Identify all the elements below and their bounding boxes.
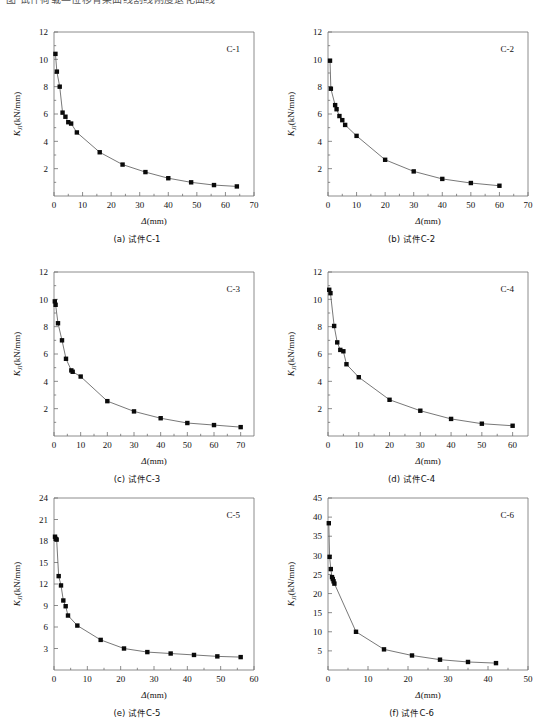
y-tick-label: 10 [313,295,323,305]
x-tick-label: 30 [130,440,140,450]
data-point-marker [189,180,193,184]
data-point-marker [410,653,414,657]
y-tick-label: 12 [313,27,322,37]
data-point-marker [98,638,102,642]
figure-c1: 01020304050607024681012C-1Δ(mm)KJI(kN/mm… [0,14,274,254]
data-point-marker [449,417,453,421]
y-tick-label: 24 [39,493,49,503]
x-tick-label: 30 [150,674,160,684]
y-tick-label: 2 [44,404,49,414]
x-tick-label: 10 [352,200,362,210]
x-tick-label: 0 [326,200,331,210]
data-point-marker [192,653,196,657]
plot-area-c4: 010203040506024681012C-4Δ(mm)KJI(kN/mm) [276,256,544,470]
data-point-marker [337,114,341,118]
data-point-marker [383,158,387,162]
x-tick-label: 40 [447,440,457,450]
data-point-marker [69,121,73,125]
x-tick-label: 30 [444,674,454,684]
x-tick-label: 60 [250,674,260,684]
x-tick-label: 0 [52,200,57,210]
figure-caption-c6: (f) 试件C-6 [274,706,549,718]
y-tick-label: 2 [44,164,49,174]
y-tick-label: 40 [313,512,323,522]
x-tick-label: 50 [477,440,487,450]
x-tick-label: 50 [524,674,534,684]
data-point-marker [78,374,82,378]
y-tick-label: 15 [39,558,49,568]
data-point-marker [105,399,109,403]
chart-c3: 01020304050607024681012C-3Δ(mm)KJI(kN/mm… [2,256,270,470]
x-tick-label: 30 [409,200,419,210]
series-label: C-1 [227,44,241,54]
figure-c3: 01020304050607024681012C-3Δ(mm)KJI(kN/mm… [0,254,274,480]
y-axis-title: KJI(kN/mm) [12,562,23,607]
plot-frame [328,272,528,436]
data-point-marker [328,59,332,63]
data-point-marker [58,84,62,88]
data-point-marker [158,416,162,420]
x-axis-title: Δ(mm) [414,690,440,700]
x-tick-label: 70 [524,200,534,210]
data-point-marker [387,398,391,402]
y-tick-label: 10 [313,55,323,65]
y-tick-label: 6 [318,109,323,119]
plot-area-c2: 01020304050607024681012C-2Δ(mm)KJI(kN/mm… [276,16,544,230]
data-point-marker [332,581,336,585]
x-tick-label: 40 [164,200,174,210]
figure-c6: 0102030405051015202530354045C-6Δ(mm)KJI(… [274,480,549,724]
y-tick-label: 8 [318,322,323,332]
data-point-marker [168,651,172,655]
data-point-marker [494,661,498,665]
x-tick-label: 40 [183,674,193,684]
data-point-marker [75,130,79,134]
data-point-marker [60,338,64,342]
x-axis-title: Δ(mm) [140,456,166,466]
data-series-line [55,537,241,657]
data-point-marker [334,107,338,111]
x-tick-label: 30 [135,200,145,210]
x-tick-label: 70 [250,200,260,210]
figure-c5: 01020304050603691215182124C-5Δ(mm)KJI(kN… [0,480,274,724]
x-tick-label: 50 [192,200,202,210]
data-point-marker [132,409,136,413]
y-axis-title: KJI(kN/mm) [12,92,23,137]
x-tick-label: 40 [484,674,494,684]
data-point-marker [412,169,416,173]
data-point-marker [333,103,337,107]
y-tick-label: 12 [313,267,322,277]
data-point-marker [469,181,473,185]
chart-c2: 01020304050607024681012C-2Δ(mm)KJI(kN/mm… [276,16,544,230]
series-label: C-4 [501,284,515,294]
figure-caption-c2: (b) 试件C-2 [274,232,549,244]
data-point-marker [329,87,333,91]
data-point-marker [66,613,70,617]
data-series-line [329,523,496,663]
y-tick-label: 8 [44,82,49,92]
data-point-marker [75,623,79,627]
data-point-marker [63,115,67,119]
x-tick-label: 60 [495,200,505,210]
plot-frame [54,498,254,670]
x-axis-title: Δ(mm) [414,216,440,226]
x-tick-label: 30 [416,440,426,450]
x-tick-label: 20 [404,674,414,684]
data-point-marker [327,555,331,559]
plot-area-c1: 01020304050607024681012C-1Δ(mm)KJI(kN/mm… [2,16,270,230]
x-tick-label: 20 [116,674,126,684]
y-tick-label: 6 [318,349,323,359]
data-point-marker [60,110,64,114]
x-axis-title: Δ(mm) [140,216,166,226]
y-tick-label: 4 [318,377,323,387]
x-tick-label: 60 [508,440,517,450]
x-tick-label: 20 [103,440,113,450]
x-tick-label: 0 [326,440,331,450]
y-tick-label: 45 [313,493,323,503]
plot-area-c6: 0102030405051015202530354045C-6Δ(mm)KJI(… [276,482,544,704]
x-tick-label: 40 [438,200,448,210]
y-tick-label: 10 [39,55,49,65]
data-point-marker [59,583,63,587]
data-point-marker [341,349,345,353]
y-tick-label: 15 [313,608,323,618]
y-tick-label: 6 [44,109,49,119]
